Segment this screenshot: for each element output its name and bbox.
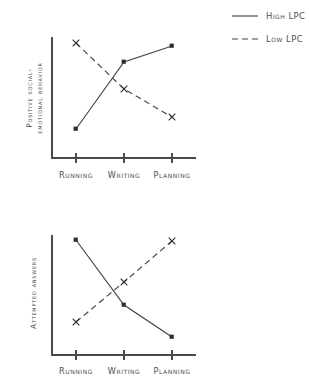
legend: High LPC Low LPC: [232, 11, 305, 44]
legend-entry-high-lpc: High LPC: [232, 11, 305, 21]
data-point-low-lpc-running-top: [73, 40, 80, 47]
data-point-high-lpc-planning-top: [170, 44, 174, 48]
data-point-low-lpc-writing-top: [121, 86, 128, 93]
series-line-high-lpc-top: [76, 46, 172, 129]
y-axis-title-bottom: Attempted answers: [29, 257, 38, 329]
data-point-high-lpc-planning-bottom: [170, 335, 174, 339]
x-label-planning-bottom: Planning: [154, 366, 191, 376]
data-point-low-lpc-planning-top: [169, 114, 176, 121]
x-label-writing-top: Writing: [108, 170, 140, 180]
chart-panel-attempted-answers: Running Writing Planning Attempted answe…: [29, 235, 196, 376]
series-line-low-lpc-top: [76, 43, 172, 117]
figure-root: High LPC Low LPC: [0, 0, 309, 384]
x-label-planning-top: Planning: [154, 170, 191, 180]
data-point-low-lpc-writing-bottom: [121, 279, 128, 286]
two-panel-line-chart: High LPC Low LPC: [0, 0, 309, 384]
data-point-high-lpc-writing-bottom: [122, 303, 126, 307]
x-label-running-top: Running: [59, 170, 93, 180]
x-label-running-bottom: Running: [59, 366, 93, 376]
y-axis-title-top: Positive social- emotional behavior: [25, 62, 44, 134]
series-line-high-lpc-bottom: [76, 240, 172, 337]
data-point-low-lpc-planning-bottom: [169, 238, 176, 245]
data-point-low-lpc-running-bottom: [73, 319, 80, 326]
axis-lines-top: [52, 37, 196, 158]
data-point-high-lpc-running-top: [74, 127, 78, 131]
legend-label-low-lpc: Low LPC: [266, 34, 303, 44]
y-axis-title-top-line2: emotional behavior: [35, 62, 44, 134]
data-point-high-lpc-running-bottom: [74, 238, 78, 242]
chart-panel-positive-social-emotional-behavior: Running Writing Planning Positive social…: [25, 37, 196, 180]
y-axis-title-top-line1: Positive social-: [25, 68, 34, 128]
x-label-writing-bottom: Writing: [108, 366, 140, 376]
data-point-high-lpc-writing-top: [122, 60, 126, 64]
legend-entry-low-lpc: Low LPC: [232, 34, 303, 44]
axis-lines-bottom: [52, 235, 196, 355]
legend-label-high-lpc: High LPC: [266, 11, 305, 21]
